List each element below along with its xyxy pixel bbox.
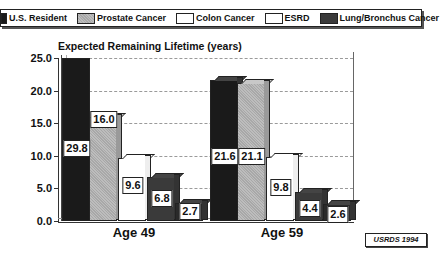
x-category-label: Age 59 [261,225,304,240]
legend-swatch [176,13,194,24]
bar-side-face [202,200,208,220]
plot-right-border [353,52,354,220]
legend-label: U.S. Resident [9,13,67,23]
y-tick-label: 20.0 [2,85,52,97]
bar-prostate-cancer [89,117,117,221]
source-annotation: USRDS 1994 [365,233,427,247]
legend-swatch [320,13,338,24]
x-category-label: Age 49 [113,225,156,240]
legend-label: Lung/Bronchus Cancer [340,13,440,23]
legend-swatch [1,13,7,24]
y-tick-label: 5.0 [2,182,52,194]
chart-title: Expected Remaining Lifetime (years) [58,40,242,52]
gridline [64,58,353,59]
y-tick-label: 0.0 [2,215,52,227]
value-label: 6.8 [151,190,172,207]
value-label: 29.8 [63,140,90,157]
value-label: 16.0 [90,111,117,128]
y-tick-label: 25.0 [2,52,52,64]
value-label: 21.1 [238,148,265,165]
legend-swatch [77,13,95,24]
value-label: 4.4 [299,200,320,217]
value-label: 9.8 [270,179,291,196]
legend-item: Lung/Bronchus Cancer [320,13,440,24]
legend-label: ESRD [285,13,310,23]
legend-label: Prostate Cancer [97,13,166,23]
legend-label: Colon Cancer [196,13,255,23]
legend-item: Prostate Cancer [77,13,166,24]
legend-item: Colon Cancer [176,13,255,24]
gridline [64,91,353,92]
legend-swatch [265,13,283,24]
legend: U.S. ResidentProstate CancerColon Cancer… [0,9,422,27]
y-tick-label: 15.0 [2,117,52,129]
legend-item: U.S. Resident [1,13,67,24]
value-label: 9.6 [122,177,143,194]
value-label: 2.6 [327,206,348,223]
legend-item: ESRD [265,13,310,24]
value-label: 2.7 [179,203,200,220]
y-axis [58,58,59,221]
bar-side-face [350,201,356,220]
value-label: 21.6 [211,148,238,165]
y-tick-label: 10.0 [2,150,52,162]
